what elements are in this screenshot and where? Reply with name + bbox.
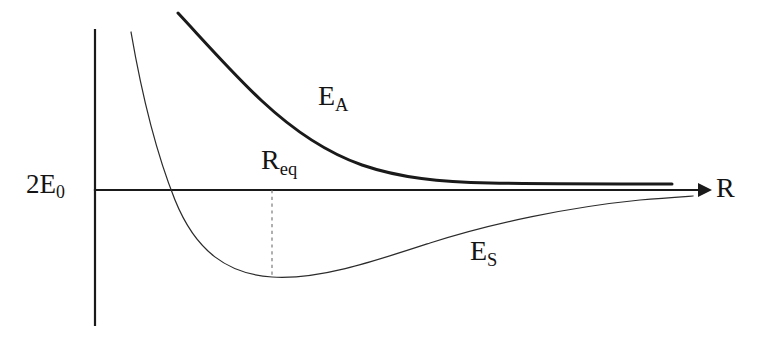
equilibrium-distance-label: Req — [261, 146, 298, 174]
r-axis-arrowhead — [698, 183, 712, 197]
bonding-curve-label: ES — [470, 237, 498, 265]
equilibrium-distance-label-subscript: eq — [280, 159, 298, 179]
bonding-curve-label-base: E — [470, 235, 487, 266]
energy-curve-figure: 2E0 EA ES Req R — [0, 0, 769, 355]
bonding-curve-label-subscript: S — [487, 250, 497, 270]
r-axis-label: R — [716, 174, 735, 202]
antibonding-curve — [178, 13, 672, 184]
antibonding-curve-label: EA — [318, 82, 349, 110]
antibonding-curve-label-subscript: A — [335, 95, 349, 115]
energy-axis-label-subscript: 0 — [56, 182, 65, 202]
axes-group — [95, 30, 712, 325]
energy-axis-label: 2E0 — [26, 171, 65, 198]
curves-group — [131, 13, 693, 277]
energy-axis-label-base: 2E — [26, 169, 56, 199]
equilibrium-distance-label-base: R — [261, 144, 280, 175]
antibonding-curve-label-base: E — [318, 80, 335, 111]
bonding-curve — [131, 32, 693, 277]
